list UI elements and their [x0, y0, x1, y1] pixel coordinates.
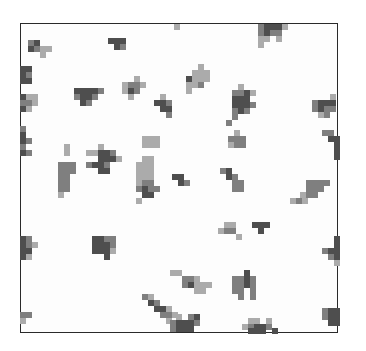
- lattice-cell: [282, 24, 288, 30]
- lattice-cell: [198, 82, 204, 88]
- lattice-cell: [20, 318, 26, 324]
- lattice-cell: [154, 142, 160, 148]
- lattice-cell: [140, 82, 146, 88]
- lattice-cell: [250, 294, 256, 300]
- lattice-cell: [250, 90, 256, 96]
- lattice-cell: [26, 78, 32, 84]
- lattice-cell: [324, 180, 330, 186]
- lattice-cell: [330, 106, 336, 112]
- lattice-cell: [92, 94, 98, 100]
- lattice-cell: [272, 328, 278, 334]
- lattice-cell: [188, 326, 194, 332]
- lattice-cell: [204, 76, 210, 82]
- lattice-cell: [258, 228, 264, 234]
- lattice-cell: [260, 328, 266, 334]
- lattice-cell: [250, 102, 256, 108]
- lattice-cell: [302, 198, 308, 204]
- lattice-cell: [166, 112, 172, 118]
- lattice-cell: [104, 168, 110, 174]
- lattice-cell: [110, 248, 116, 254]
- lattice-cell: [264, 222, 270, 228]
- lattice-cell: [334, 260, 340, 266]
- lattice-cell: [32, 242, 38, 248]
- lattice-cell: [240, 142, 246, 148]
- lattice-cell: [318, 186, 324, 192]
- lattice-cell: [148, 192, 154, 198]
- lattice-cell: [46, 46, 52, 52]
- lattice-cell: [154, 186, 160, 192]
- lattice-cell: [40, 52, 46, 58]
- lattice-cell: [264, 36, 270, 42]
- lattice-cell: [120, 44, 126, 50]
- lattice-cell: [200, 288, 206, 294]
- lattice-cell: [70, 168, 76, 174]
- lattice-cell: [334, 154, 340, 160]
- lattice-cell: [194, 320, 200, 326]
- lattice-cell: [174, 24, 180, 30]
- lattice-cell: [238, 294, 244, 300]
- lattice-cell: [110, 156, 116, 162]
- lattice-cell: [58, 192, 64, 198]
- lattice-cell: [64, 186, 70, 192]
- lattice-cell: [136, 198, 142, 204]
- lattice-cell: [312, 192, 318, 198]
- lattice-cell: [236, 234, 242, 240]
- lattice-cell: [32, 100, 38, 106]
- lattice-cell: [26, 312, 32, 318]
- lattice-cell: [26, 106, 32, 112]
- lattice-cell: [238, 186, 244, 192]
- lattice-cell: [26, 254, 32, 260]
- lattice-cell: [226, 120, 232, 126]
- lattice-cell: [64, 150, 70, 156]
- lattice-cell: [232, 114, 238, 120]
- lattice-cell: [26, 150, 32, 156]
- lattice-cell: [186, 88, 192, 94]
- lattice-cell: [334, 320, 340, 326]
- lattice-cell: [324, 112, 330, 118]
- lattice-cell: [276, 36, 282, 42]
- lattice-cell: [206, 282, 212, 288]
- lattice-cell: [26, 138, 32, 144]
- lattice-cell: [116, 156, 122, 162]
- lattice-cell: [104, 254, 110, 260]
- lattice-cell: [86, 100, 92, 106]
- lattice-cell: [244, 108, 250, 114]
- lattice-cell: [258, 42, 264, 48]
- lattice-cell: [98, 88, 104, 94]
- lattice-cell: [128, 94, 134, 100]
- lattice-cell: [184, 180, 190, 186]
- lattice-cell: [134, 88, 140, 94]
